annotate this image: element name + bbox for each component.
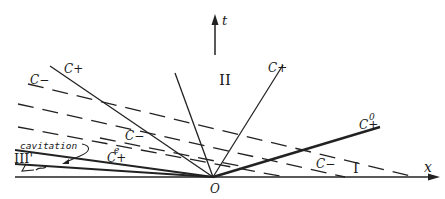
c-plus-left-line — [50, 66, 213, 177]
t-axis-arrow-icon — [212, 14, 219, 25]
region-1-label: I — [353, 160, 359, 176]
characteristics-diagram: x t O C+ C+ C− C− C− C+ e — [0, 0, 445, 199]
t-axis — [212, 14, 219, 55]
x-axis — [15, 174, 440, 181]
c-minus-middle-label: C− — [125, 129, 144, 143]
c-plus-left-label: C+ — [64, 62, 83, 76]
c-plus-0-superscript: 0 — [369, 112, 375, 122]
region-2-label: II — [219, 71, 231, 89]
origin-label: O — [210, 182, 220, 196]
c-minus-upper-left-label: C− — [30, 73, 49, 87]
cavitation-arrowhead-icon — [62, 159, 69, 164]
c-minus-right-label: C− — [316, 157, 335, 171]
region-3-label: III' — [14, 151, 33, 166]
c-plus-right-label: C+ — [268, 61, 287, 75]
t-axis-label: t — [222, 13, 228, 28]
cavitation-label: cavitation — [20, 140, 77, 151]
c-plus-e-superscript: e — [114, 145, 119, 155]
cavitation-lower-line — [15, 164, 213, 177]
x-axis-label: x — [424, 159, 432, 175]
region-2-left-boundary — [175, 73, 213, 177]
